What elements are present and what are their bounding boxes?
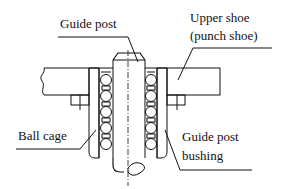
bushing-label-line2: bushing	[182, 148, 224, 163]
bushing-label-line1: Guide post	[182, 129, 239, 144]
ball-cage-label: Ball cage	[18, 128, 67, 143]
guide-post-bushing-left	[71, 68, 99, 158]
ball-cage-right	[145, 60, 157, 158]
upper-shoe-label-line2: (punch shoe)	[190, 28, 258, 43]
ball-cage-left	[99, 60, 113, 158]
guide-post-bushing-right	[157, 68, 185, 158]
upper-shoe-right	[167, 68, 220, 95]
guide-post-label: Guide post	[60, 16, 117, 31]
label-guide-post-bushing: Guide post bushing	[165, 129, 252, 170]
upper-shoe-left	[41, 68, 89, 95]
label-upper-shoe: Upper shoe (punch shoe)	[178, 10, 272, 80]
label-guide-post: Guide post	[58, 16, 138, 62]
label-ball-cage: Ball cage	[16, 128, 96, 149]
upper-shoe-label-line1: Upper shoe	[190, 10, 250, 25]
guide-post	[113, 53, 145, 175]
guide-post-diagram: Guide post Upper shoe (punch shoe) Ball …	[0, 0, 285, 189]
